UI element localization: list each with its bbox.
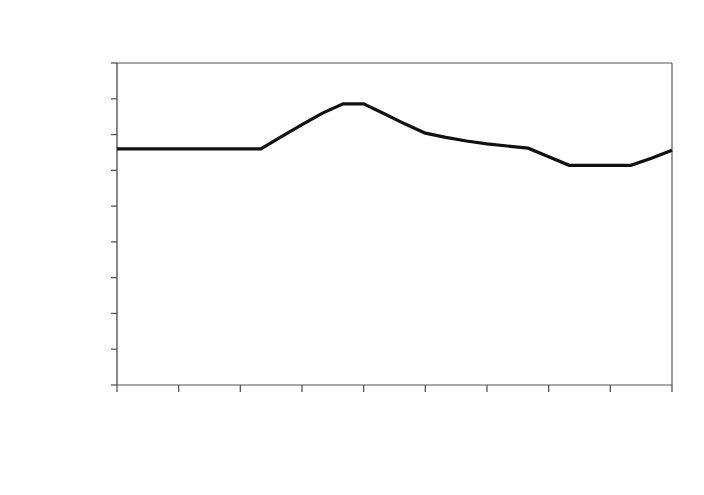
ethanol-price-chart: Ethanol $/gal 4.504.003.503.002.502.001.… (0, 0, 704, 495)
chart-background (0, 0, 704, 495)
plot-canvas (0, 0, 704, 495)
